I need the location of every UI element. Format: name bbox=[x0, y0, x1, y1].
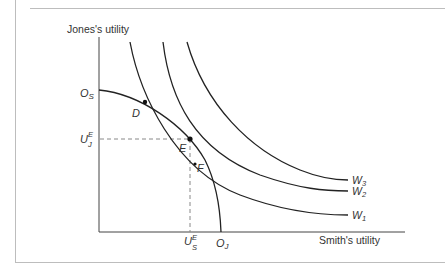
us-e-label: U bbox=[184, 235, 192, 247]
x-axis-label: Smith's utility bbox=[319, 234, 381, 246]
utility-possibility-frontier bbox=[99, 90, 221, 232]
point-d-label: D bbox=[132, 107, 140, 119]
point-e-marker bbox=[187, 136, 192, 141]
os-label: OS bbox=[80, 87, 95, 101]
oj-label: OJ bbox=[216, 237, 230, 251]
uj-e-sup: E bbox=[88, 130, 94, 139]
y-axis-label: Jones's utility bbox=[67, 23, 130, 35]
point-d-marker bbox=[143, 100, 147, 104]
w1-label: W1 bbox=[352, 209, 366, 223]
us-e-sup: E bbox=[192, 233, 198, 242]
point-e-label: E bbox=[179, 142, 187, 154]
w3-curve bbox=[187, 42, 348, 180]
welfare-diagram: Jones's utility Smith's utility OS OJ U … bbox=[0, 0, 445, 271]
w2-curve bbox=[163, 42, 348, 191]
uj-e-label: U bbox=[80, 133, 88, 145]
point-f-label: F bbox=[197, 162, 205, 174]
us-e-sub: S bbox=[192, 243, 197, 252]
uj-e-sub: J bbox=[87, 140, 92, 149]
